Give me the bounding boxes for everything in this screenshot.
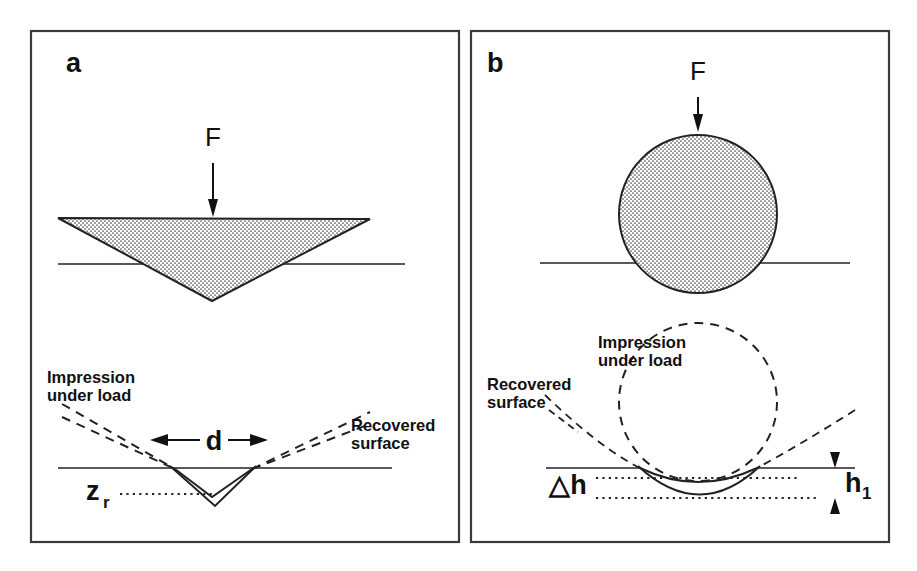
panel-a-diagonal-dimension: d [150,426,268,456]
panel-a-frame [31,31,459,542]
panel-b-loaded-impression-curve [638,466,760,495]
panel-b-impression-caption: Impression under load [598,333,686,369]
panel-a-impression-caption-line2: under load [47,386,131,404]
panel-b-label: b [487,48,504,78]
panel-a-impression-caption: Impression under load [47,368,135,404]
panel-a-detail [58,404,392,506]
panel-b-recovered-caption: Recovered surface [487,375,578,432]
panel-b-force-arrow-head [693,114,703,132]
panel-b-force-label: F [690,56,706,86]
panel-b-recovered-dash-left [545,395,640,468]
panel-b: b F [471,31,889,542]
panel-b-impression-caption-line1: Impression [598,333,686,351]
panel-b-force-arrow: F [690,56,706,132]
panel-a-pyramid-indenter [58,218,370,301]
panel-a-zr-subscript: r [103,493,110,512]
panel-b-h1-label: h [845,468,862,498]
panel-a-d-arrowhead-right [250,434,268,446]
panel-b-delta-h-label: △h [548,470,587,500]
panel-a-recovered-groove [175,469,252,497]
panel-a-recovered-caption: Recovered surface [351,416,435,452]
panel-b-impression-caption-line2: under load [598,351,682,369]
panel-a-zr-label-group: z r [86,476,110,512]
panel-b-detail [545,323,855,498]
panel-a-recovered-caption-line2: surface [351,434,410,452]
panel-b-h1-dimension: h 1 [830,452,871,514]
figure-root: a F [0,0,917,571]
panel-a-d-arrowhead-left [150,434,168,446]
panel-a-force-arrow: F [205,122,221,217]
panel-b-recovered-dash-right [757,410,855,468]
panel-a-zr-label: z [86,476,100,506]
panel-a-force-arrow-head [208,199,218,217]
panel-a-label: a [66,48,82,78]
panel-a: a F [31,31,459,542]
panel-a-impression-dash-left-inner [62,417,175,469]
panel-a-d-label: d [206,426,223,456]
panel-a-impression-groove [170,466,256,506]
panel-b-ball-indenter [619,135,777,293]
panel-a-impression-dash-left-outer [62,404,175,469]
panel-b-recovered-caption-line2: surface [487,393,546,411]
panel-a-recovered-caption-line1: Recovered [351,416,435,434]
panel-b-h1-subscript: 1 [862,484,871,503]
panel-b-recovered-caption-line1: Recovered [487,375,571,393]
panel-b-recovered-caption-leader [549,410,578,432]
panel-a-force-label: F [205,122,221,152]
indentation-diagram: a F [0,0,917,571]
panel-a-impression-caption-line1: Impression [47,368,135,386]
